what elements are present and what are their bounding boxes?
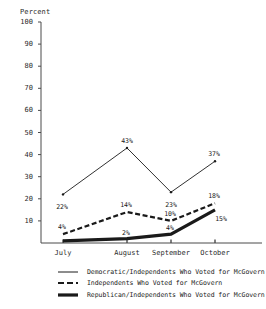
data-point: [126, 147, 128, 149]
legend-swatch-solid-thick-icon: [58, 292, 78, 298]
plot-area: [0, 0, 266, 309]
series-lines: [62, 147, 216, 241]
data-point: [62, 193, 64, 195]
legend-item-democratic: Democratic/Independents Who Voted for Mc…: [58, 266, 266, 278]
legend-item-independents: Independents Who Voted for McGovern: [58, 278, 266, 290]
data-point: [214, 160, 216, 162]
legend-swatch-dashed-icon: [58, 280, 78, 286]
series-line-1: [63, 203, 215, 234]
legend-swatch-solid-thin-icon: [58, 269, 78, 275]
legend-label-independents: Independents Who Voted for McGovern: [87, 279, 222, 287]
line-chart: Percent 102030405060708090100 JulyAugust…: [0, 0, 266, 309]
legend-label-democratic: Democratic/Independents Who Voted for Mc…: [87, 268, 265, 276]
data-point: [170, 191, 172, 193]
series-line-0: [63, 148, 215, 194]
chart-legend: Democratic/Independents Who Voted for Mc…: [58, 266, 266, 301]
legend-label-republican: Republican/Independents Who Voted for Mc…: [87, 291, 265, 299]
axes: [38, 22, 262, 243]
legend-item-republican: Republican/Independents Who Voted for Mc…: [58, 289, 266, 301]
